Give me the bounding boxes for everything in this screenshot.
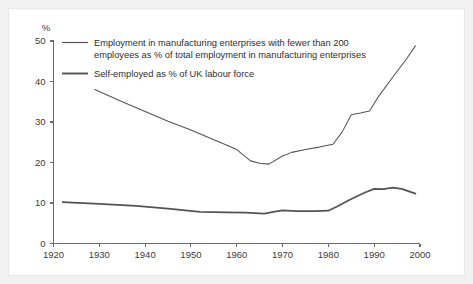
y-tick-label: 20 (35, 157, 46, 168)
x-axis-ticks: 192019301940195019601970198019902000 (43, 244, 431, 261)
x-tick-label: 1990 (364, 249, 385, 260)
y-tick-label: 30 (35, 116, 46, 127)
x-tick-label: 1980 (318, 249, 339, 260)
y-tick-label: 0 (40, 238, 45, 249)
series-line-manufacturing (95, 46, 416, 164)
x-tick-label: 1930 (89, 249, 110, 260)
line-chart: 01020304050 1920193019401950196019701980… (0, 0, 473, 284)
y-axis-unit-label: % (42, 22, 51, 33)
y-axis-ticks: 01020304050 (35, 35, 54, 249)
x-tick-label: 1960 (226, 249, 247, 260)
y-tick-label: 40 (35, 76, 46, 87)
chart-legend: Employment in manufacturing enterprises … (62, 38, 366, 79)
series-line-self-employed (63, 188, 416, 214)
x-tick-label: 2000 (409, 249, 430, 260)
legend-label-self-employed-line1: Self-employed as % of UK labour force (94, 69, 254, 79)
chart-figure: 01020304050 1920193019401950196019701980… (0, 0, 473, 284)
legend-label-manufacturing-line1: Employment in manufacturing enterprises … (94, 38, 349, 48)
x-tick-label: 1920 (43, 249, 64, 260)
y-tick-label: 50 (35, 35, 46, 46)
legend-label-manufacturing-line2: employees as % of total employment in ma… (94, 50, 366, 60)
x-tick-label: 1970 (272, 249, 293, 260)
x-tick-label: 1950 (180, 249, 201, 260)
y-tick-label: 10 (35, 197, 46, 208)
x-tick-label: 1940 (135, 249, 156, 260)
